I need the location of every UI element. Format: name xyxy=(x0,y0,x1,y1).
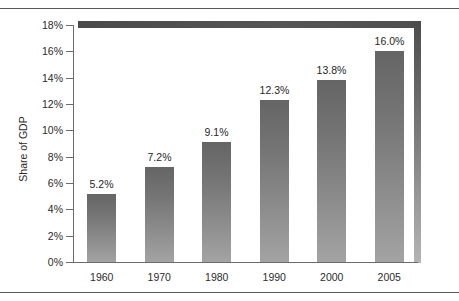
y-axis-tick-label: 0% xyxy=(19,257,63,268)
y-axis-tick-label: 14% xyxy=(19,72,63,83)
x-axis-tick-label: 1990 xyxy=(244,271,304,283)
bar xyxy=(202,142,231,262)
x-axis-tick-label: 1970 xyxy=(129,271,189,283)
y-axis-tick xyxy=(66,157,73,158)
chart-figure: Share of GDP 0%2%4%6%8%10%12%14%16%18% 5… xyxy=(0,0,459,301)
y-axis-tick xyxy=(66,51,73,52)
bar xyxy=(375,51,404,262)
y-axis-tick xyxy=(66,130,73,131)
x-axis-tick-label: 2005 xyxy=(359,271,419,283)
y-axis-tick-label: 2% xyxy=(19,230,63,241)
y-axis-tick-label: 10% xyxy=(19,125,63,136)
y-axis-tick-label: 6% xyxy=(19,178,63,189)
x-axis-tick-label: 2000 xyxy=(302,271,362,283)
bar-value-label: 16.0% xyxy=(363,36,416,47)
y-axis-tick-label: 16% xyxy=(19,46,63,57)
y-axis-tick xyxy=(66,25,73,26)
plot-frame xyxy=(73,21,421,263)
y-axis-tick-label: 12% xyxy=(19,99,63,110)
bar-value-label: 9.1% xyxy=(190,127,243,138)
y-axis-line xyxy=(73,25,74,263)
bar xyxy=(145,167,174,262)
frame-top-band xyxy=(78,21,421,28)
y-axis-tick xyxy=(66,209,73,210)
y-axis-tick xyxy=(66,262,73,263)
bar xyxy=(260,100,289,262)
bar-value-label: 7.2% xyxy=(133,152,186,163)
y-axis-tick xyxy=(66,236,73,237)
bar-value-label: 13.8% xyxy=(305,65,358,76)
bar-value-label: 12.3% xyxy=(248,85,301,96)
x-axis-tick-label: 1960 xyxy=(72,271,132,283)
top-divider-rule xyxy=(0,8,459,9)
y-axis-tick xyxy=(66,104,73,105)
bar xyxy=(87,194,116,262)
y-axis-tick xyxy=(66,183,73,184)
x-axis-tick-label: 1980 xyxy=(187,271,247,283)
plot-background xyxy=(73,28,414,263)
bar xyxy=(317,80,346,262)
y-axis-tick xyxy=(66,78,73,79)
x-axis-line xyxy=(73,262,418,263)
y-axis-tick-label: 4% xyxy=(19,204,63,215)
bottom-divider-rule xyxy=(0,292,459,293)
y-axis-tick-label: 8% xyxy=(19,151,63,162)
bar-value-label: 5.2% xyxy=(75,179,128,190)
frame-right-band xyxy=(414,21,421,263)
y-axis-tick-label: 18% xyxy=(19,20,63,31)
